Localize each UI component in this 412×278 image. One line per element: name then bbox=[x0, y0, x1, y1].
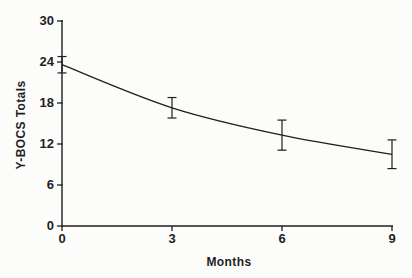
y-tick-label: 18 bbox=[40, 95, 54, 110]
y-axis-title: Y-BOCS Totals bbox=[14, 81, 28, 170]
x-tick-label: 6 bbox=[278, 231, 285, 246]
y-tick-label: 6 bbox=[47, 177, 54, 192]
y-tick-label: 30 bbox=[40, 13, 54, 28]
x-axis-title: Months bbox=[206, 255, 251, 269]
data-line bbox=[62, 65, 392, 155]
x-tick-label: 9 bbox=[388, 231, 395, 246]
x-tick-label: 0 bbox=[58, 231, 65, 246]
y-tick-label: 0 bbox=[47, 218, 54, 233]
chart-figure: 06121824300369 Y-BOCS Totals Months bbox=[0, 0, 412, 278]
x-tick-label: 3 bbox=[168, 231, 175, 246]
y-tick-label: 24 bbox=[40, 54, 55, 69]
y-tick-label: 12 bbox=[40, 136, 54, 151]
ybocs-line-chart: 06121824300369 bbox=[0, 0, 412, 278]
